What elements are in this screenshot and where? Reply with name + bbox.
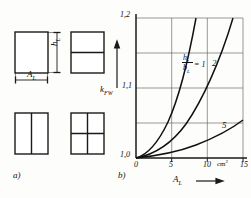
dim-width-label: AL	[27, 69, 36, 81]
x-tick-label-1: 5	[169, 160, 173, 169]
x-tick-label-2: 10	[203, 160, 211, 169]
x-tick-label-3: 15	[240, 160, 248, 169]
y-axis-arrow-head	[115, 41, 120, 48]
curve-label-1: = 1	[194, 60, 205, 69]
curve-key-denominator: bL	[183, 63, 190, 74]
x-axis-unit: cm2	[217, 159, 228, 168]
y-axis-title: kFW	[100, 84, 113, 96]
x-tick-label-0: 0	[134, 160, 138, 169]
panel-a-caption: a)	[13, 170, 21, 180]
panel-a-shapes	[15, 32, 104, 154]
y-tick-label-1: 1,1	[122, 81, 132, 90]
panel-b-caption: b)	[118, 170, 126, 180]
curve-label-5: 5	[222, 120, 227, 130]
x-axis-arrow-head	[216, 179, 223, 184]
figure-root	[0, 0, 251, 198]
x-axis-title: AL	[173, 174, 182, 186]
dim-height-label: hL	[49, 38, 61, 46]
shape-single-pane	[15, 32, 48, 73]
curve-key-numerator: hL	[183, 53, 190, 64]
y-tick-label-0: 1,2	[120, 10, 130, 19]
curve-label-2: 2	[212, 58, 217, 68]
y-tick-label-2: 1,0	[120, 150, 130, 159]
